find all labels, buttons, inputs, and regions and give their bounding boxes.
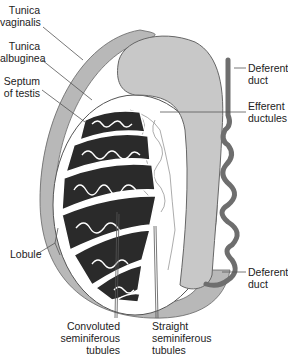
label-tunica-vaginalis: Tunica vaginalis	[0, 4, 40, 28]
label-deferent-duct-top: Deferent duct	[248, 62, 288, 86]
label-efferent-ductules: Efferent ductules	[248, 100, 287, 124]
label-straight-tubules: Straight seminiferous tubules	[152, 320, 212, 356]
label-lobule: Lobule	[10, 248, 42, 260]
label-septum-of-testis: Septum of testis	[0, 75, 40, 99]
label-convoluted-tubules: Convoluted seminiferous tubules	[60, 320, 120, 356]
label-tunica-albuginea: Tunica albuginea	[0, 40, 40, 64]
label-deferent-duct-bottom: Deferent duct	[248, 266, 288, 290]
